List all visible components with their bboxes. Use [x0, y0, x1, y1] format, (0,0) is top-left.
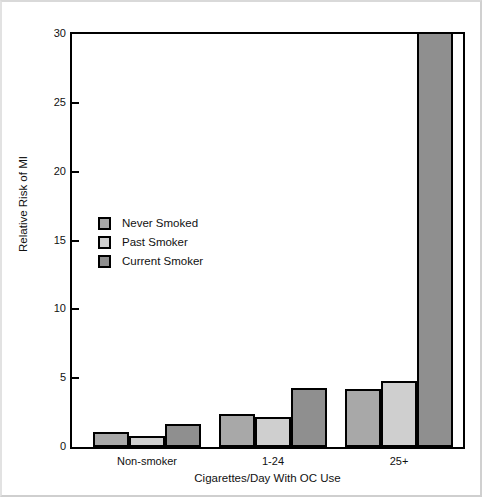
y-axis-tick-mark	[72, 308, 79, 310]
legend-swatch-icon	[98, 236, 111, 249]
y-axis-tick-mark	[72, 240, 79, 242]
bar	[345, 389, 381, 447]
legend-item: Past Smoker	[98, 233, 203, 252]
y-axis-tick-label: 10	[36, 303, 66, 314]
y-axis-tick-label: 0	[36, 441, 66, 452]
legend-item: Current Smoker	[98, 252, 203, 271]
x-axis-title: Cigarettes/Day With OC Use	[70, 472, 465, 484]
bar	[93, 432, 129, 447]
legend-item: Never Smoked	[98, 214, 203, 233]
y-axis-tick-label: 15	[36, 235, 66, 246]
y-axis-tick-label: 30	[36, 28, 66, 39]
legend-item-label: Past Smoker	[122, 236, 188, 249]
legend-item-label: Current Smoker	[122, 255, 203, 268]
bar	[417, 32, 453, 447]
chart-legend: Never SmokedPast SmokerCurrent Smoker	[98, 214, 203, 271]
y-axis-tick-label: 20	[36, 166, 66, 177]
y-axis-tick-mark	[72, 171, 79, 173]
y-axis-tick-mark	[72, 377, 79, 379]
legend-item-label: Never Smoked	[122, 217, 198, 230]
x-axis-group-label: 1-24	[213, 455, 333, 467]
y-axis-title: Relative Risk of MI	[17, 139, 29, 269]
legend-swatch-icon	[98, 255, 111, 268]
bar	[291, 388, 327, 447]
bar-chart-figure: 051015202530 Relative Risk of MI Non-smo…	[2, 2, 482, 497]
y-axis-tick-label: 5	[36, 372, 66, 383]
y-axis-tick-label: 25	[36, 97, 66, 108]
bar	[255, 417, 291, 447]
bar	[219, 414, 255, 447]
bar	[381, 381, 417, 447]
bar	[165, 424, 201, 447]
bar	[129, 436, 165, 447]
page-canvas: 051015202530 Relative Risk of MI Non-smo…	[0, 0, 482, 497]
legend-swatch-icon	[98, 217, 111, 230]
x-axis-group-label: 25+	[339, 455, 459, 467]
x-axis-group-label: Non-smoker	[87, 455, 207, 467]
y-axis-tick-mark	[72, 102, 79, 104]
y-axis-tick-labels: 051015202530	[32, 2, 66, 497]
